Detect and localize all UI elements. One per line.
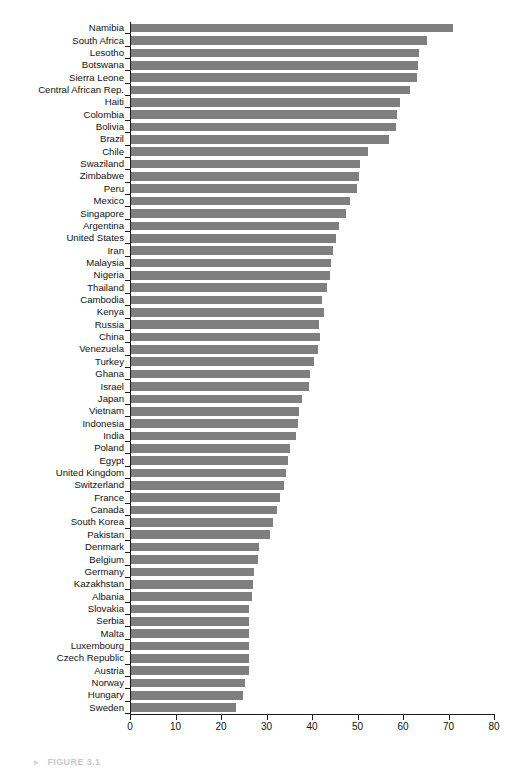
bar-row: Malta: [0, 628, 522, 640]
category-label: Russia: [0, 320, 124, 330]
bar-row: Poland: [0, 442, 522, 454]
bar-row: South Africa: [0, 34, 522, 46]
bar-row: Austria: [0, 665, 522, 677]
bar-row: Kenya: [0, 306, 522, 318]
bar: [131, 469, 286, 478]
category-label: United Kingdom: [0, 468, 124, 478]
bar-row: Israel: [0, 380, 522, 392]
bar: [131, 395, 302, 404]
category-label: Indonesia: [0, 419, 124, 429]
category-label: Venezuela: [0, 344, 124, 354]
category-label: Haiti: [0, 97, 124, 107]
gini-bar-chart: NamibiaSouth AfricaLesothoBotswanaSierra…: [0, 0, 522, 770]
bar-row: Peru: [0, 183, 522, 195]
bar: [131, 432, 296, 441]
category-label: Luxembourg: [0, 641, 124, 651]
bar-row: Chile: [0, 146, 522, 158]
bar: [131, 555, 258, 564]
bar: [131, 209, 346, 218]
x-axis-tick-label: 30: [247, 721, 287, 733]
bar: [131, 160, 360, 169]
category-label: Switzerland: [0, 480, 124, 490]
category-label: Slovakia: [0, 604, 124, 614]
category-label: Egypt: [0, 456, 124, 466]
bar-row: Belgium: [0, 553, 522, 565]
category-label: Turkey: [0, 357, 124, 367]
x-axis-tick: [403, 715, 404, 720]
category-label: Malta: [0, 629, 124, 639]
x-axis-tick: [267, 715, 268, 720]
bar: [131, 172, 359, 181]
category-label: France: [0, 493, 124, 503]
bar-row: Egypt: [0, 455, 522, 467]
bar: [131, 382, 309, 391]
category-label: Lesotho: [0, 48, 124, 58]
bar: [131, 135, 389, 144]
bar: [131, 481, 284, 490]
bar: [131, 666, 249, 675]
bar: [131, 259, 331, 268]
category-label: India: [0, 431, 124, 441]
bar-row: Germany: [0, 566, 522, 578]
x-axis-tick-label: 60: [383, 721, 423, 733]
bar: [131, 283, 327, 292]
bar-row: Iran: [0, 244, 522, 256]
category-label: Serbia: [0, 616, 124, 626]
bar-row: South Korea: [0, 516, 522, 528]
category-label: Central African Rep.: [0, 85, 124, 95]
bar: [131, 419, 298, 428]
category-label: United States: [0, 233, 124, 243]
category-label: Bolivia: [0, 122, 124, 132]
bar-row: Canada: [0, 504, 522, 516]
bar: [131, 110, 397, 119]
bar-row: Venezuela: [0, 343, 522, 355]
bar: [131, 296, 322, 305]
bar-row: Namibia: [0, 22, 522, 34]
x-axis-tick: [176, 715, 177, 720]
category-label: Botswana: [0, 60, 124, 70]
bar-row: Japan: [0, 393, 522, 405]
category-label: Pakistan: [0, 530, 124, 540]
bar-row: Nigeria: [0, 269, 522, 281]
bar-row: Norway: [0, 677, 522, 689]
category-label: Chile: [0, 147, 124, 157]
bar: [131, 654, 249, 663]
bar: [131, 530, 270, 539]
category-label: Brazil: [0, 134, 124, 144]
bar-row: Slovakia: [0, 603, 522, 615]
category-label: Singapore: [0, 209, 124, 219]
bar: [131, 592, 252, 601]
x-axis-ticks: 01020304050607080: [0, 715, 522, 745]
bar: [131, 605, 249, 614]
category-label: Germany: [0, 567, 124, 577]
bar-row: Turkey: [0, 356, 522, 368]
figure-caption: ▸FIGURE 3.1: [34, 757, 100, 767]
bar: [131, 543, 259, 552]
category-label: Peru: [0, 184, 124, 194]
bar: [131, 642, 249, 651]
bar: [131, 246, 333, 255]
bar: [131, 147, 368, 156]
bar: [131, 184, 357, 193]
bar: [131, 506, 277, 515]
category-label: Hungary: [0, 690, 124, 700]
category-label: Argentina: [0, 221, 124, 231]
bar-row: Brazil: [0, 133, 522, 145]
category-label: Mexico: [0, 196, 124, 206]
x-axis-tick: [221, 715, 222, 720]
bar-row: Colombia: [0, 109, 522, 121]
bar-row: Czech Republic: [0, 652, 522, 664]
bar-row: Ghana: [0, 368, 522, 380]
bar-row: Cambodia: [0, 294, 522, 306]
x-axis-tick: [312, 715, 313, 720]
bar: [131, 345, 318, 354]
bar-row: Switzerland: [0, 479, 522, 491]
bar-rows-container: NamibiaSouth AfricaLesothoBotswanaSierra…: [0, 22, 522, 714]
bar-row: Bolivia: [0, 121, 522, 133]
caption-label: FIGURE 3.1: [47, 757, 100, 767]
x-axis-tick-label: 40: [292, 721, 332, 733]
bar-row: Mexico: [0, 195, 522, 207]
bar: [131, 333, 320, 342]
category-label: Colombia: [0, 110, 124, 120]
category-label: Denmark: [0, 542, 124, 552]
